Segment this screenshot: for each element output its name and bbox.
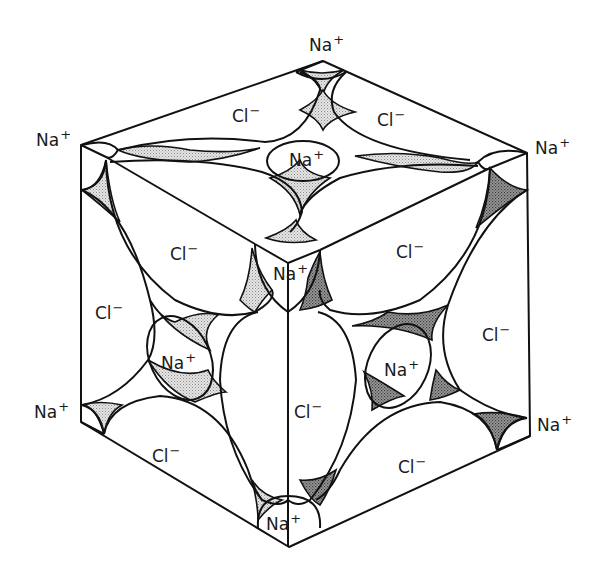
label-na-right-bottom-corner: Na+: [537, 417, 572, 434]
ion-charge: +: [60, 127, 71, 142]
gap-right-center-upper: [352, 305, 448, 340]
label-cl-right-face-bottom: Cl−: [398, 459, 427, 476]
label-na-left-top-corner: Na+: [36, 132, 71, 149]
ion-symbol: Cl: [232, 106, 249, 126]
ion-symbol: Cl: [482, 325, 499, 345]
gap-right-upper-corner: [476, 168, 527, 228]
label-cl-front-edge-center: Cl−: [294, 404, 323, 421]
ion-symbol: Na: [289, 150, 312, 170]
gap-top-left: [118, 146, 260, 162]
ion-charge: −: [416, 454, 427, 469]
label-na-right-face-center: Na+: [384, 362, 419, 379]
top-cl-left-outline: [118, 72, 320, 150]
label-cl-top-face-right: Cl−: [377, 112, 406, 129]
ion-charge: −: [395, 107, 406, 122]
edge-top-left-to-front: [106, 157, 255, 244]
ion-charge: −: [170, 443, 181, 458]
edge-top-left-inner: [81, 145, 106, 157]
ion-charge: −: [500, 322, 511, 337]
top-left-corner-na: [82, 142, 118, 157]
label-cl-top-face-left: Cl−: [232, 108, 261, 125]
ion-charge: −: [188, 241, 199, 256]
gap-right-lower-mid: [430, 370, 460, 400]
ion-symbol: Na: [161, 353, 184, 373]
label-cl-left-face-bottom: Cl−: [152, 448, 181, 465]
ion-symbol: Cl: [396, 242, 413, 262]
ion-symbol: Na: [537, 415, 560, 435]
ion-charge: +: [58, 399, 69, 414]
ion-symbol: Cl: [398, 457, 415, 477]
ion-symbol: Na: [384, 360, 407, 380]
gap-left-center-upper: [150, 300, 218, 350]
edge-top-right-to-front: [320, 168, 490, 250]
label-na-front-top-vertex: Na+: [273, 266, 308, 283]
gap-right-lower-corner: [474, 413, 527, 450]
ion-charge: +: [297, 261, 308, 276]
label-na-top-vertex: Na+: [309, 37, 344, 54]
label-na-left-face-center: Na+: [161, 355, 196, 372]
front-corner-cut: [255, 244, 320, 263]
ion-charge: +: [559, 135, 570, 150]
top-right-corner-na: [478, 151, 527, 169]
ion-symbol: Cl: [95, 303, 112, 323]
ion-symbol: Na: [309, 35, 332, 55]
edge-top-corner-notch-left: [296, 61, 323, 72]
ion-charge: +: [561, 412, 572, 427]
label-cl-right-face-right-edge: Cl−: [482, 327, 511, 344]
ion-charge: −: [312, 399, 323, 414]
label-na-right-top-corner: Na+: [535, 140, 570, 157]
ion-charge: +: [408, 357, 419, 372]
label-na-top-face-center: Na+: [289, 152, 324, 169]
ion-symbol: Na: [266, 514, 289, 534]
ion-symbol: Cl: [294, 402, 311, 422]
gap-top-upper-center: [300, 90, 355, 130]
label-na-left-bottom-corner: Na+: [34, 404, 69, 421]
ion-symbol: Na: [273, 264, 296, 284]
ion-symbol: Na: [36, 130, 59, 150]
label-cl-right-face-upper: Cl−: [396, 244, 425, 261]
ion-charge: −: [113, 300, 124, 315]
ion-symbol: Na: [34, 402, 57, 422]
ion-charge: +: [290, 511, 301, 526]
label-cl-left-face-upper: Cl−: [170, 246, 199, 263]
label-cl-left-face-left-edge: Cl−: [95, 305, 124, 322]
label-na-bottom-vertex: Na+: [266, 516, 301, 533]
ion-charge: −: [250, 103, 261, 118]
ion-symbol: Na: [535, 138, 558, 158]
ion-charge: +: [333, 32, 344, 47]
ion-symbol: Cl: [377, 110, 394, 130]
ion-symbol: Cl: [170, 244, 187, 264]
ion-symbol: Cl: [152, 446, 169, 466]
edge-top-right-inner: [490, 153, 527, 168]
ion-charge: +: [185, 350, 196, 365]
ion-charge: −: [414, 239, 425, 254]
ion-charge: +: [313, 147, 324, 162]
right-face-edge-cl: [443, 190, 527, 418]
left-face-edge-cl: [82, 190, 155, 405]
right-face-bottom-cl: [316, 402, 497, 500]
nacl-unit-cell-diagram: [0, 0, 609, 574]
